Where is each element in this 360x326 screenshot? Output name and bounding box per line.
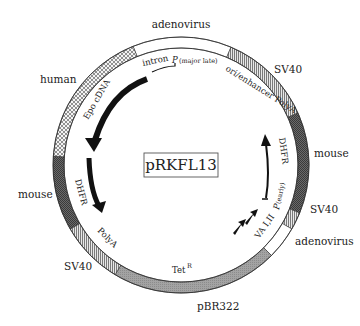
plasmid-map: pRKFL13 adenovirus SV40 mouse SV40 adeno… xyxy=(0,0,360,326)
label-polya-left: PolyA xyxy=(96,225,121,250)
tet-text: Tet xyxy=(172,265,186,275)
label-tet-r: Tet R xyxy=(172,262,193,275)
dhfr-left-arrow xyxy=(89,158,99,206)
dhfr-right-arrowhead-icon xyxy=(261,134,271,146)
va-arrow-2-icon xyxy=(233,219,246,235)
label-sv40-top-right: SV40 xyxy=(274,63,302,75)
label-promoter-major-late: P (major late) xyxy=(171,55,218,65)
label-intron: intron xyxy=(141,53,169,68)
label-mouse-right: mouse xyxy=(314,147,349,159)
label-pbr322: pBR322 xyxy=(197,300,239,312)
label-promoter-early: P (early) xyxy=(271,181,287,212)
plasmid-name: pRKFL13 xyxy=(145,156,217,174)
plasmid-name-box: pRKFL13 xyxy=(144,153,218,177)
dhfr-right-arrow xyxy=(266,144,268,198)
epo-arrowhead-icon xyxy=(85,138,102,152)
label-human: human xyxy=(40,73,77,85)
label-mouse-left: mouse xyxy=(18,188,53,200)
ring-segment-adenovirus-top xyxy=(133,37,231,57)
label-va-i-ii: VA I,II xyxy=(252,212,276,241)
label-sv40-right: SV40 xyxy=(310,203,338,215)
plasmid-map-svg: pRKFL13 adenovirus SV40 mouse SV40 adeno… xyxy=(0,0,360,326)
label-adenovirus-right: adenovirus xyxy=(295,235,354,247)
label-adenovirus-top: adenovirus xyxy=(152,18,211,30)
va-arrow-1-icon xyxy=(245,209,258,225)
ring-segment-mouse-left xyxy=(53,156,80,229)
label-sv40-left: SV40 xyxy=(64,260,92,272)
label-dhfr-right: DHFR xyxy=(277,137,291,165)
promoter-early-sub: (early) xyxy=(274,181,286,204)
tet-sup: R xyxy=(187,262,193,270)
promoter-major-late-sub: (major late) xyxy=(179,57,218,65)
label-dhfr-left: DHFR xyxy=(73,178,90,207)
